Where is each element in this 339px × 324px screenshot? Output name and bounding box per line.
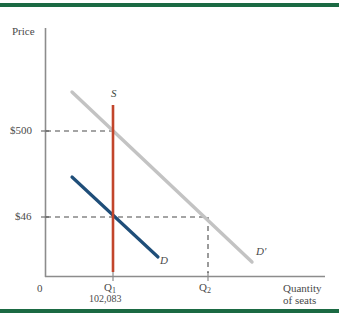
x-tick-label-q2: Q2 bbox=[199, 281, 211, 296]
demand-curve-label: D bbox=[160, 254, 168, 266]
x-axis-title-line2: of seats bbox=[283, 294, 322, 306]
x-tick-label-q1-base: Q bbox=[104, 281, 112, 293]
figure-container: Price Quantity of seats $500 $46 0 Q1 10… bbox=[0, 0, 339, 324]
demand-shifted-curve bbox=[72, 92, 252, 262]
supply-demand-plot bbox=[0, 0, 339, 324]
x-tick-label-q2-base: Q bbox=[199, 281, 207, 293]
demand-shifted-curve-label: D′ bbox=[256, 245, 266, 257]
y-tick-label-46: $46 bbox=[15, 210, 32, 222]
supply-curve-label: S bbox=[111, 87, 117, 99]
y-tick-label-500: $500 bbox=[10, 124, 32, 136]
x-axis-title: Quantity of seats bbox=[283, 282, 322, 307]
y-axis-title: Price bbox=[12, 25, 35, 37]
x-axis-title-line1: Quantity bbox=[283, 282, 322, 294]
demand-shifted-label-prime: ′ bbox=[264, 245, 266, 257]
x-tick-label-q2-subscript: 2 bbox=[207, 286, 211, 295]
demand-shifted-label-base: D bbox=[256, 245, 264, 257]
x-tick-value-q1: 102,083 bbox=[89, 293, 122, 304]
origin-label: 0 bbox=[37, 282, 43, 294]
